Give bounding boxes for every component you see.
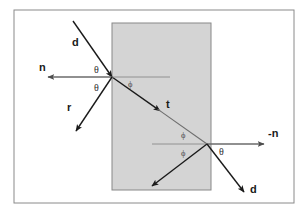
phi-exit-upper-label: ϕ [181, 130, 186, 140]
phi-exit-lower-label: ϕ [181, 148, 186, 158]
theta-exit-label: θ [219, 146, 224, 157]
exit-ray-label: d [250, 183, 257, 195]
exit-normal-label: -n [268, 127, 279, 139]
transparent-medium-slab [112, 23, 211, 190]
diagram-canvas: θθϕϕϕθ dnrt-nd [0, 0, 308, 215]
incident-ray-label: d [72, 36, 79, 48]
phi-entry-label: ϕ [128, 79, 133, 89]
theta-incident-label: θ [94, 64, 99, 75]
transmitted-ray-label: t [166, 98, 170, 110]
optics-diagram-figure: θθϕϕϕθ dnrt-nd [0, 0, 308, 215]
incident-normal-label: n [39, 61, 46, 73]
reflected-ray-label: r [67, 101, 72, 113]
theta-reflected-label: θ [94, 82, 99, 93]
